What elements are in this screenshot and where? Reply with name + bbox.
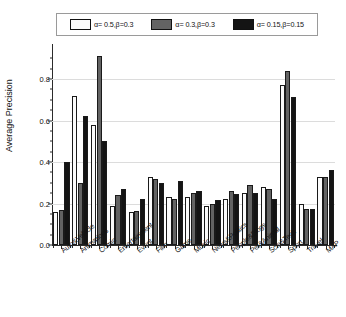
- legend-swatch-icon: [151, 19, 172, 30]
- bar-group: [204, 48, 220, 245]
- bar-group: [148, 48, 164, 245]
- bar: [329, 170, 334, 245]
- legend-item-2: α= 0.15,β=0.15: [233, 19, 304, 30]
- bar: [291, 97, 296, 245]
- bar: [53, 212, 58, 245]
- bar: [153, 179, 158, 245]
- bar-group: [317, 48, 333, 245]
- bar: [64, 162, 69, 245]
- legend-item-label: α= 0.3,β=0.3: [175, 20, 214, 29]
- bar-group: [242, 48, 258, 245]
- legend-item-label: α= 0.15,β=0.15: [257, 20, 304, 29]
- x-axis-minor-tick: [280, 245, 281, 248]
- x-axis-minor-tick: [261, 245, 262, 248]
- bar: [210, 204, 215, 245]
- bar-group: [223, 48, 239, 245]
- bar: [178, 181, 183, 245]
- x-axis-minor-tick: [317, 245, 318, 248]
- bar: [148, 177, 153, 245]
- bar-group: [166, 48, 182, 245]
- bar: [280, 85, 285, 245]
- x-axis-minor-tick: [53, 245, 54, 248]
- bar-group: [72, 48, 88, 245]
- bar: [97, 56, 102, 245]
- bar: [166, 197, 171, 245]
- plot-area: 0.00.20.40.60.8: [52, 48, 335, 245]
- x-axis-minor-tick: [148, 245, 149, 248]
- bar-group: [129, 48, 145, 245]
- chart-figure: α= 0.5,β=0.3 α= 0.3,β=0.3 α= 0.15,β=0.15…: [0, 0, 346, 317]
- x-axis-minor-tick: [166, 245, 167, 248]
- legend-item-1: α= 0.3,β=0.3: [151, 19, 214, 30]
- bar: [304, 209, 309, 245]
- x-axis-minor-tick: [223, 245, 224, 248]
- bar-group: [185, 48, 201, 245]
- bar: [115, 195, 120, 245]
- chart-legend: α= 0.5,β=0.3 α= 0.3,β=0.3 α= 0.15,β=0.15: [56, 13, 318, 36]
- bar: [317, 177, 322, 245]
- bar: [72, 96, 77, 245]
- legend-item-label: α= 0.5,β=0.3: [94, 20, 133, 29]
- bar-group: [53, 48, 69, 245]
- bar-group: [261, 48, 277, 245]
- x-axis-minor-tick: [299, 245, 300, 248]
- bar-group: [110, 48, 126, 245]
- legend-swatch-icon: [70, 19, 91, 30]
- x-axis-minor-tick: [110, 245, 111, 248]
- bar: [121, 189, 126, 245]
- bar: [196, 191, 201, 245]
- legend-item-0: α= 0.5,β=0.3: [70, 19, 133, 30]
- x-axis-minor-tick: [91, 245, 92, 248]
- bar: [172, 199, 177, 245]
- bar: [191, 193, 196, 245]
- legend-swatch-icon: [233, 19, 254, 30]
- y-axis-title: Average Precision: [4, 79, 14, 152]
- bar-group: [91, 48, 107, 245]
- bar-group: [299, 48, 315, 245]
- x-axis-minor-tick: [204, 245, 205, 248]
- x-axis-minor-tick: [129, 245, 130, 248]
- bar: [159, 183, 164, 245]
- bar: [285, 71, 290, 245]
- x-axis-minor-tick: [185, 245, 186, 248]
- x-axis-minor-tick: [72, 245, 73, 248]
- bar-group: [280, 48, 296, 245]
- bar: [323, 177, 328, 245]
- bar-groups: [52, 48, 335, 245]
- bar: [59, 210, 64, 245]
- x-axis-minor-tick: [242, 245, 243, 248]
